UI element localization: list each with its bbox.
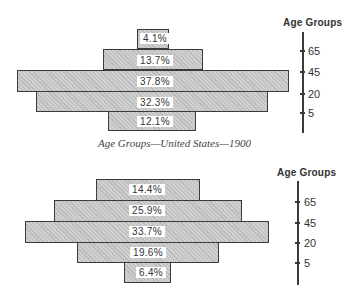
axis-tick bbox=[295, 262, 300, 264]
pyramid-chart-2: 14.4% 25.9% 33.7% 19.6% 6.4% Age Groups … bbox=[0, 0, 348, 291]
axis-title: Age Groups bbox=[277, 167, 336, 179]
bar-value-label: 25.9% bbox=[129, 205, 165, 216]
bar-value-label: 14.4% bbox=[129, 184, 165, 195]
age-axis-line bbox=[297, 181, 299, 285]
bar-value-label: 33.7% bbox=[129, 226, 165, 237]
axis-tick-label: 5 bbox=[304, 257, 310, 269]
axis-tick bbox=[295, 222, 300, 224]
axis-tick bbox=[295, 242, 300, 244]
axis-tick bbox=[295, 201, 300, 203]
axis-tick-label: 65 bbox=[304, 196, 316, 208]
bar-value-label: 19.6% bbox=[130, 247, 166, 258]
axis-tick-label: 45 bbox=[304, 217, 316, 229]
bar-value-label: 6.4% bbox=[136, 267, 166, 278]
axis-tick-label: 20 bbox=[304, 237, 316, 249]
